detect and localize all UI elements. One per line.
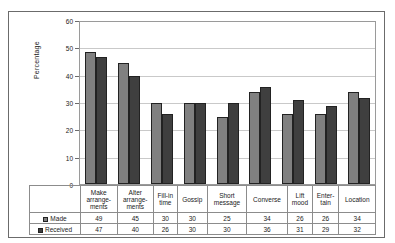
bar-made <box>151 103 162 184</box>
legend-item-made: Made <box>30 213 81 224</box>
bar-received <box>293 100 304 184</box>
bar-received <box>359 98 370 184</box>
bar-received <box>260 87 271 184</box>
bar-made <box>85 52 96 184</box>
table-column-header-line: time <box>154 199 177 206</box>
table-column-header-line: message <box>208 199 246 206</box>
table-column-header: Location <box>339 186 376 213</box>
table-column-header-line: ments <box>118 203 154 210</box>
table-column-header-line: arrange- <box>118 196 154 203</box>
table-column-header: Converse <box>246 186 287 213</box>
bar-group <box>178 22 211 184</box>
plot-area <box>79 21 376 185</box>
table-column-header: Alterarrange-ments <box>117 186 154 213</box>
table-cell-value: 29 <box>312 224 339 235</box>
table-column-header-line: arrange- <box>81 196 117 203</box>
bar-made <box>282 114 293 184</box>
table-column-header-line: Lift <box>288 192 312 199</box>
table-column-header: Makearrange-ments <box>81 186 118 213</box>
table-cell-value: 47 <box>81 224 118 235</box>
table-cell-value: 34 <box>246 213 287 224</box>
table-column-header-line: Converse <box>247 196 287 203</box>
table-cell-value: 26 <box>154 224 178 235</box>
table-column-header: Fill-intime <box>154 186 178 213</box>
table-cell-value: 25 <box>207 213 246 224</box>
table-column-header-line: tain <box>313 199 339 206</box>
bar-made <box>249 92 260 184</box>
table-column-header: Enter-tain <box>312 186 339 213</box>
y-axis-tick-label: 10 <box>66 154 73 161</box>
bar-received <box>228 103 239 184</box>
bar-made <box>184 103 195 184</box>
bar-received <box>326 106 337 184</box>
table-cell-value: 34 <box>339 213 376 224</box>
bar-group <box>211 22 244 184</box>
legend-label-received: Received <box>45 226 72 233</box>
bar-group <box>309 22 342 184</box>
table-cell-value: 45 <box>117 213 154 224</box>
bar-series-container <box>80 22 375 184</box>
y-axis-tick-label: 60 <box>66 18 73 25</box>
bar-group <box>146 22 179 184</box>
table-cell-value: 49 <box>81 213 118 224</box>
y-axis-title: Percentage <box>33 41 40 79</box>
table-column-header: Shortmessage <box>207 186 246 213</box>
bar-group <box>342 22 375 184</box>
legend-corner-cell <box>30 186 81 213</box>
table-header-row: Makearrange-mentsAlterarrange-mentsFill-… <box>30 186 376 213</box>
bar-received <box>129 76 140 184</box>
table-cell-value: 30 <box>177 213 207 224</box>
legend-item-received: Received <box>30 224 81 235</box>
table-row: Received 474026303036312932 <box>30 224 376 235</box>
y-axis-tick-label: 40 <box>66 72 73 79</box>
made-swatch-icon <box>43 217 48 222</box>
table-column-header-line: Fill-in <box>154 192 177 199</box>
bar-made <box>348 92 359 184</box>
received-swatch-icon <box>38 228 43 233</box>
bar-made <box>217 117 228 185</box>
bar-made <box>315 114 326 184</box>
table-column-header-line: Alter <box>118 189 154 196</box>
table-column-header: Gossip <box>177 186 207 213</box>
y-axis-tick-label: 30 <box>66 100 73 107</box>
table-cell-value: 30 <box>154 213 178 224</box>
table-cell-value: 30 <box>177 224 207 235</box>
y-axis: Percentage 0102030405060 <box>9 21 79 185</box>
table-cell-value: 31 <box>288 224 313 235</box>
bar-received <box>96 57 107 184</box>
bar-group <box>80 22 113 184</box>
table-column-header: Liftmood <box>288 186 313 213</box>
table-cell-value: 36 <box>246 224 287 235</box>
bar-made <box>118 63 129 185</box>
data-table: Makearrange-mentsAlterarrange-mentsFill-… <box>29 185 376 235</box>
table-column-header-line: Make <box>81 189 117 196</box>
table-column-header-line: Gossip <box>178 196 207 203</box>
table-column-header-line: mood <box>288 199 312 206</box>
bar-group <box>113 22 146 184</box>
table-cell-value: 32 <box>339 224 376 235</box>
bar-group <box>277 22 310 184</box>
table-cell-value: 30 <box>207 224 246 235</box>
bar-received <box>195 103 206 184</box>
chart-frame: Percentage 0102030405060 Makearrange-men… <box>8 11 385 238</box>
bar-received <box>162 114 173 184</box>
table-column-header-line: Short <box>208 192 246 199</box>
bar-group <box>244 22 277 184</box>
table-row: Made 494530302534262634 <box>30 213 376 224</box>
legend-label-made: Made <box>50 215 66 222</box>
table-cell-value: 26 <box>288 213 313 224</box>
table-column-header-line: Enter- <box>313 192 339 199</box>
table-column-header-line: Location <box>339 196 375 203</box>
table-cell-value: 40 <box>117 224 154 235</box>
table-column-header-line: ments <box>81 203 117 210</box>
table-cell-value: 26 <box>312 213 339 224</box>
y-axis-tick-label: 20 <box>66 127 73 134</box>
y-axis-tick-label: 50 <box>66 45 73 52</box>
